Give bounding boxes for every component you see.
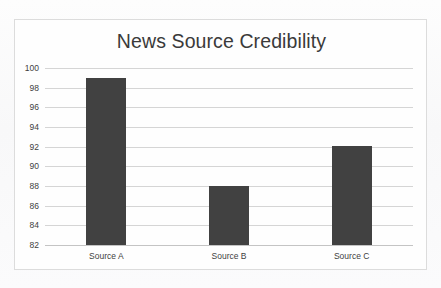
y-axis-tick-label: 82 xyxy=(30,240,39,250)
y-axis-tick-label: 96 xyxy=(30,102,39,112)
gridline xyxy=(45,68,413,69)
x-axis-tick-label: Source C xyxy=(334,251,369,261)
y-axis-tick-label: 92 xyxy=(30,142,39,152)
y-axis-tick-label: 86 xyxy=(30,201,39,211)
x-axis-tick-label: Source A xyxy=(89,251,124,261)
bar-source-b xyxy=(209,186,249,245)
y-axis-tick-label: 100 xyxy=(25,63,39,73)
screenshot-page: News Source Credibility 1009896949290888… xyxy=(0,0,441,288)
chart-title: News Source Credibility xyxy=(15,30,428,53)
bar-source-a xyxy=(86,78,126,245)
chart-container: News Source Credibility 1009896949290888… xyxy=(14,19,427,270)
y-axis-tick-label: 98 xyxy=(30,83,39,93)
plot-area: 100989694929088868482Source ASource BSou… xyxy=(45,68,413,245)
x-axis-tick-label: Source B xyxy=(212,251,247,261)
y-axis-tick-label: 84 xyxy=(30,220,39,230)
y-axis-tick-label: 88 xyxy=(30,181,39,191)
bar-source-c xyxy=(332,146,372,245)
y-axis-tick-label: 90 xyxy=(30,161,39,171)
gridline xyxy=(45,245,413,246)
y-axis-tick-label: 94 xyxy=(30,122,39,132)
